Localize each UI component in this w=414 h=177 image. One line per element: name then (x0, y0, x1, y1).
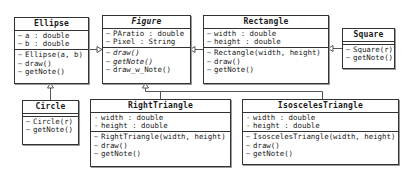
method-text: getNote() (25, 67, 65, 76)
methods-section: ~IsoscelesTriangle(width, height) ~draw(… (243, 131, 398, 159)
class-name: Circle (23, 101, 78, 114)
method-text: draw_w_Note() (113, 65, 171, 74)
visibility-marker: ~ (246, 150, 253, 158)
attribute-row: -height : double (94, 122, 227, 130)
attribute-text: height : double (253, 121, 320, 130)
attributes-section: -width : double -height : double (243, 113, 398, 131)
method-row: ~getNote() (18, 68, 85, 76)
method-text: getNote() (101, 149, 141, 158)
method-text: getNote() (353, 53, 393, 62)
method-text: getNote() (253, 149, 293, 158)
method-row: ~getNote() (246, 150, 395, 158)
class-name: Square (343, 29, 394, 42)
visibility-marker: ~ (346, 54, 353, 62)
visibility-marker: ~ (94, 150, 101, 158)
class-figure[interactable]: Figure ~PAratio : double ~Pixel : String… (102, 15, 191, 84)
class-right-triangle[interactable]: RightTriangle -width : double -height : … (90, 99, 231, 167)
attribute-text: b : double (25, 39, 70, 48)
method-text: getNote() (33, 125, 73, 134)
class-name: RightTriangle (91, 100, 230, 113)
methods-section: ~draw() ~getNote() ~draw_w_Note() (103, 47, 190, 75)
visibility-marker: ~ (207, 66, 214, 74)
attribute-row: ~height : double (207, 38, 325, 46)
visibility-marker: ~ (18, 40, 25, 48)
methods-section: ~Ellipse(a, b) ~draw() ~getNote() (15, 49, 88, 77)
method-row: ~getNote() (346, 54, 391, 62)
attribute-row: ~b : double (18, 40, 85, 48)
attributes-section: -width : double -height : double (91, 113, 230, 131)
class-square[interactable]: Square ~Square(r) ~getNote() (342, 28, 395, 69)
attribute-text: height : double (214, 37, 281, 46)
attribute-row: ~Pixel : String (106, 38, 187, 46)
visibility-marker: ~ (106, 66, 113, 74)
methods-section: ~Circle(r) ~getNote() (23, 116, 78, 135)
class-name: IsoscelesTriangle (243, 100, 398, 113)
visibility-marker: ~ (18, 68, 25, 76)
attributes-section: ~PAratio : double ~Pixel : String (103, 29, 190, 47)
attributes-section: ~a : double ~b : double (15, 31, 88, 49)
attributes-section: ~width : double ~height : double (204, 29, 328, 47)
class-name: Ellipse (15, 18, 88, 31)
class-rectangle[interactable]: Rectangle ~width : double ~height : doub… (203, 15, 329, 84)
visibility-marker: - (246, 122, 253, 130)
method-text: getNote() (214, 65, 254, 74)
visibility-marker: ~ (26, 126, 33, 134)
attribute-row: -height : double (246, 122, 395, 130)
class-name: Figure (103, 16, 190, 29)
attribute-text: height : double (101, 121, 168, 130)
visibility-marker: ~ (207, 38, 214, 46)
methods-section: ~Square(r) ~getNote() (343, 44, 394, 63)
class-name: Rectangle (204, 16, 328, 29)
visibility-marker: - (94, 122, 101, 130)
method-row: ~getNote() (207, 66, 325, 74)
methods-section: ~Rectangle(width, height) ~draw() ~getNo… (204, 47, 328, 75)
visibility-marker: ~ (106, 38, 113, 46)
method-row: ~getNote() (26, 126, 75, 134)
method-row: ~getNote() (94, 150, 227, 158)
class-ellipse[interactable]: Ellipse ~a : double ~b : double ~Ellipse… (14, 17, 89, 84)
method-row: ~draw_w_Note() (106, 66, 187, 74)
class-circle[interactable]: Circle ~Circle(r) ~getNote() (22, 100, 79, 145)
attribute-text: Pixel : String (113, 37, 175, 46)
methods-section: ~RightTriangle(width, height) ~draw() ~g… (91, 131, 230, 159)
class-isosceles-triangle[interactable]: IsoscelesTriangle -width : double -heigh… (242, 99, 399, 165)
